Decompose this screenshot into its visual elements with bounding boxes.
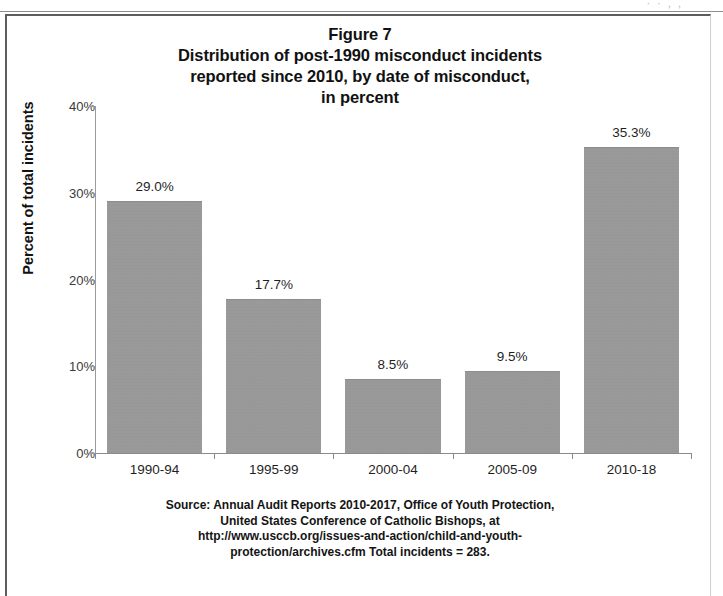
scan-artifact-rule bbox=[0, 11, 723, 12]
bar[interactable] bbox=[465, 371, 560, 453]
y-axis-tick-mark bbox=[89, 193, 96, 194]
x-axis-tick-mark bbox=[333, 453, 334, 459]
bar[interactable] bbox=[107, 201, 202, 453]
y-axis-tick-mark bbox=[89, 106, 96, 107]
x-axis-category-label: 2010-18 bbox=[584, 462, 679, 477]
x-axis-category-label: 2005-09 bbox=[465, 462, 560, 477]
chart-title-line-2: Distribution of post-1990 misconduct inc… bbox=[60, 45, 660, 66]
y-axis-tick-mark bbox=[89, 280, 96, 281]
x-axis-tick-mark bbox=[691, 453, 692, 459]
bar[interactable] bbox=[345, 379, 440, 453]
bar-value-label: 9.5% bbox=[465, 349, 560, 364]
x-axis-tick-mark bbox=[214, 453, 215, 459]
source-note-line-4: protection/archives.cfm Total incidents … bbox=[55, 545, 665, 561]
source-note: Source: Annual Audit Reports 2010-2017, … bbox=[55, 498, 665, 560]
scan-artifact-top-text: · · , , bbox=[0, 0, 723, 9]
x-axis-tick-mark bbox=[453, 453, 454, 459]
chart-title-line-4: in percent bbox=[60, 87, 660, 108]
chart-title-line-3: reported since 2010, by date of miscondu… bbox=[60, 66, 660, 87]
x-axis-tick-mark bbox=[95, 453, 96, 459]
x-axis-tick-mark bbox=[572, 453, 573, 459]
bar-value-label: 29.0% bbox=[107, 179, 202, 194]
bar-value-label: 8.5% bbox=[345, 357, 440, 372]
source-note-line-1: Source: Annual Audit Reports 2010-2017, … bbox=[55, 498, 665, 514]
y-axis-tick-mark bbox=[89, 366, 96, 367]
x-axis-category-label: 1990-94 bbox=[107, 462, 202, 477]
chart-title-line-1: Figure 7 bbox=[60, 24, 660, 45]
chart-title: Figure 7 Distribution of post-1990 misco… bbox=[60, 24, 660, 108]
plot-area: 29.0%17.7%8.5%9.5%35.3% bbox=[95, 106, 691, 453]
x-axis-category-label: 2000-04 bbox=[345, 462, 440, 477]
bar-value-label: 17.7% bbox=[226, 277, 321, 292]
x-axis-line bbox=[88, 453, 691, 454]
source-note-line-3: http://www.usccb.org/issues-and-action/c… bbox=[55, 529, 665, 545]
bar[interactable] bbox=[584, 147, 679, 453]
x-axis-category-label: 1995-99 bbox=[226, 462, 321, 477]
bar[interactable] bbox=[226, 299, 321, 453]
bar-value-label: 35.3% bbox=[584, 125, 679, 140]
source-note-line-2: United States Conference of Catholic Bis… bbox=[55, 514, 665, 530]
